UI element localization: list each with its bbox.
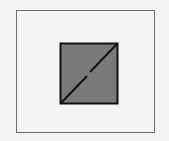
square-with-diagonal: [0, 0, 169, 141]
